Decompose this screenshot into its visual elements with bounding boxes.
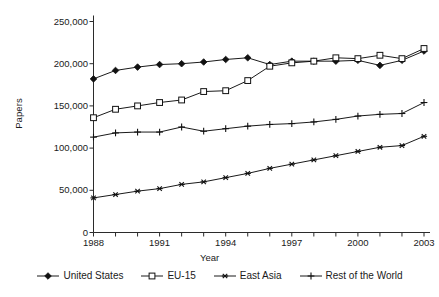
y-tick-label: 250,000 — [36, 17, 88, 27]
legend-item-east-asia[interactable]: East Asia — [213, 270, 282, 282]
x-tick-label: 1997 — [272, 237, 312, 248]
legend-item-rest-of-the-world[interactable]: Rest of the World — [299, 270, 403, 282]
y-tick-label: 200,000 — [36, 59, 88, 69]
y-axis-title: Papers — [13, 74, 24, 154]
legend-label: EU-15 — [167, 270, 195, 282]
x-tick-label: 1988 — [74, 237, 114, 248]
legend-item-united-states[interactable]: United States — [36, 270, 123, 282]
legend-marker-open-square-icon — [140, 270, 164, 282]
legend-marker-plus-icon — [299, 270, 323, 282]
series-east-asia — [90, 134, 427, 200]
y-tick-label: 150,000 — [36, 101, 88, 111]
chart-legend: United StatesEU-15East AsiaRest of the W… — [0, 270, 439, 282]
x-axis-ticks — [94, 233, 425, 237]
y-axis-ticks — [90, 22, 94, 233]
y-tick-label: 50,000 — [36, 185, 88, 195]
axis-lines — [94, 16, 431, 233]
x-tick-label: 2003 — [404, 237, 439, 248]
y-tick-label: 100,000 — [36, 143, 88, 153]
legend-label: United States — [63, 270, 123, 282]
x-tick-label: 1991 — [140, 237, 180, 248]
series-eu-15 — [91, 46, 427, 121]
legend-marker-filled-diamond-icon — [36, 270, 60, 282]
x-axis-title: Year — [200, 252, 219, 263]
legend-label: East Asia — [240, 270, 282, 282]
x-tick-label: 1994 — [206, 237, 246, 248]
y-tick-label: 0 — [36, 228, 88, 238]
legend-marker-asterisk-icon — [213, 270, 237, 282]
legend-label: Rest of the World — [326, 270, 403, 282]
papers-by-region-line-chart: Papers Year 050,000100,000150,000200,000… — [0, 0, 439, 297]
x-tick-label: 2000 — [338, 237, 378, 248]
legend-item-eu-15[interactable]: EU-15 — [140, 270, 195, 282]
